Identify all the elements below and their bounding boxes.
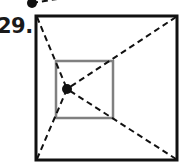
geometry-figure <box>0 0 182 168</box>
dashed-line-bottom-left <box>37 89 67 159</box>
dashed-line-top-left <box>37 17 67 89</box>
dashed-line-top-right <box>67 17 176 89</box>
center-point <box>62 84 72 94</box>
previous-dashed-line <box>32 0 70 3</box>
dashed-line-bottom-right <box>67 89 176 159</box>
previous-figure-fragment <box>27 0 70 8</box>
dashed-lines <box>37 17 176 159</box>
previous-point <box>27 0 37 8</box>
